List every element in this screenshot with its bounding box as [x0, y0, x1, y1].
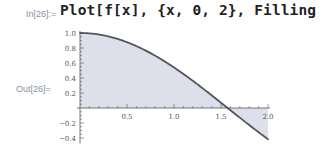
- y-tick-label: 0.4: [65, 75, 77, 83]
- y-tick-label: 0.2: [65, 90, 76, 98]
- y-tick-label: −0.2: [59, 120, 76, 128]
- y-tick-label: 0.8: [65, 45, 76, 53]
- filling-area: [80, 33, 268, 139]
- x-tick-label: 0.5: [121, 113, 132, 121]
- x-tick-label: 2.0: [262, 113, 273, 121]
- plot-output: 0.51.01.52.01.00.80.60.40.2−0.2−0.4: [0, 0, 322, 155]
- y-tick-label: −0.4: [59, 135, 77, 143]
- x-tick-label: 1.0: [168, 113, 179, 121]
- x-tick-label: 1.5: [215, 113, 226, 121]
- y-tick-label: 0.6: [65, 60, 77, 68]
- y-tick-label: 1.0: [65, 30, 76, 38]
